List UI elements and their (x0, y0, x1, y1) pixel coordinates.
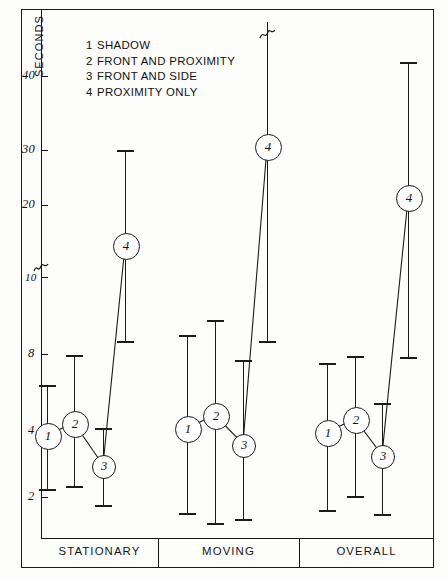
legend-item-1: 1SHADOW (86, 38, 235, 54)
x-axis-line (41, 538, 434, 539)
legend-item-4: 4PROXIMITY ONLY (86, 85, 235, 101)
x-axis-group-label-stationary: STATIONARY (41, 545, 158, 557)
error-cap-bottom-overall-1 (319, 510, 336, 512)
error-cap-bottom-stationary-4 (117, 341, 134, 343)
y-tick-label-40: 40 (22, 68, 35, 83)
error-cap-top-stationary-2 (66, 355, 83, 357)
error-cap-bottom-moving-4 (259, 341, 276, 343)
legend-item-2: 2FRONT AND PROXIMITY (86, 54, 235, 70)
error-cap-bottom-moving-1 (179, 513, 196, 515)
y-tick-mark-40 (41, 76, 48, 77)
legend-label-2: FRONT AND PROXIMITY (97, 55, 235, 67)
y-tick-mark-2 (41, 497, 48, 498)
y-tick-mark-8 (41, 354, 48, 355)
error-cap-bottom-stationary-1 (39, 489, 56, 491)
error-cap-top-moving-3 (235, 360, 252, 362)
error-cap-top-overall-2 (347, 356, 364, 358)
data-point-overall-4[interactable]: 4 (396, 185, 423, 212)
data-point-overall-2[interactable]: 2 (343, 407, 370, 434)
legend-label-1: SHADOW (97, 39, 150, 51)
error-cap-bottom-overall-4 (400, 357, 417, 359)
legend-key-3: 3 (86, 69, 97, 85)
data-point-overall-3[interactable]: 3 (371, 445, 395, 469)
x-axis-group-label-moving: MOVING (158, 545, 299, 557)
legend-label-4: PROXIMITY ONLY (97, 86, 198, 98)
error-cap-bottom-overall-3 (374, 514, 391, 516)
error-cap-top-moving-1 (179, 335, 196, 337)
error-cap-top-stationary-1 (39, 385, 56, 387)
legend-item-3: 3FRONT AND SIDE (86, 69, 235, 85)
legend: 1SHADOW 2FRONT AND PROXIMITY 3FRONT AND … (86, 38, 235, 100)
legend-label-3: FRONT AND SIDE (97, 70, 197, 82)
data-point-overall-1[interactable]: 1 (315, 420, 342, 447)
error-cap-top-stationary-4 (117, 150, 134, 152)
error-cap-top-stationary-3 (95, 428, 112, 430)
y-tick-label-20: 20 (22, 197, 35, 212)
error-cap-bottom-moving-2 (207, 523, 224, 525)
data-point-stationary-4[interactable]: 4 (113, 233, 140, 260)
error-cap-bottom-overall-2 (347, 496, 364, 498)
y-tick-label-2: 2 (28, 489, 34, 504)
error-cap-bottom-stationary-3 (95, 505, 112, 507)
figure-canvas: SECONDS 40 30 20 10 8 4 2 1SHADOW 2FRONT… (0, 0, 447, 578)
error-cap-top-overall-1 (319, 363, 336, 365)
y-tick-mark-10 (41, 277, 48, 278)
legend-key-2: 2 (86, 54, 97, 70)
data-point-stationary-2[interactable]: 2 (62, 411, 89, 438)
data-point-stationary-3[interactable]: 3 (92, 455, 116, 479)
y-tick-label-10: 10 (25, 271, 36, 283)
error-cap-top-moving-2 (207, 320, 224, 322)
error-bar-moving-4 (267, 22, 268, 342)
data-point-moving-2[interactable]: 2 (203, 403, 230, 430)
data-point-moving-4[interactable]: 4 (255, 134, 282, 161)
y-tick-label-4: 4 (28, 423, 34, 438)
error-cap-bottom-moving-3 (235, 519, 252, 521)
data-point-stationary-1[interactable]: 1 (35, 423, 62, 450)
x-axis-group-label-overall: OVERALL (299, 545, 434, 557)
error-cap-top-overall-4 (400, 62, 417, 64)
y-tick-label-30: 30 (22, 142, 35, 157)
y-tick-mark-20 (41, 205, 48, 206)
y-tick-label-8: 8 (28, 346, 34, 361)
error-cap-top-overall-3 (374, 403, 391, 405)
error-bar-break-icon-moving-4 (259, 28, 276, 42)
legend-key-4: 4 (86, 85, 97, 101)
error-cap-bottom-stationary-2 (66, 486, 83, 488)
legend-key-1: 1 (86, 38, 97, 54)
y-tick-mark-30 (41, 150, 48, 151)
data-point-moving-3[interactable]: 3 (232, 434, 256, 458)
data-point-moving-1[interactable]: 1 (175, 416, 202, 443)
